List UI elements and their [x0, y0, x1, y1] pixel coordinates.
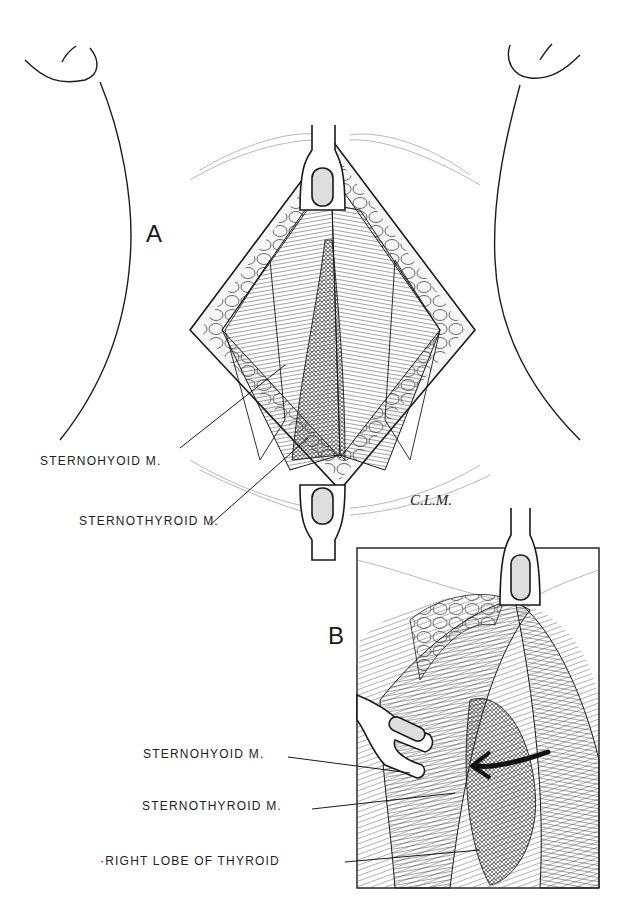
retractor-bottom-a: [300, 485, 345, 560]
label-sternothyroid-b: STERNOTHYROID M.: [142, 800, 282, 812]
neck-outline-right: [495, 44, 580, 440]
panel-label-a: A: [146, 222, 162, 246]
artist-signature: C.L.M.: [410, 492, 452, 509]
retractor-top-a: [300, 125, 345, 210]
retractor-top-b: [500, 508, 540, 605]
label-sternohyoid-b: STERNOHYOID M.: [143, 748, 264, 760]
surgical-illustration: A B STERNOHYOID M. STERNOTHYROID M. STER…: [0, 0, 623, 907]
panel-label-b: B: [328, 624, 344, 648]
neck-outline-left: [25, 46, 131, 440]
label-sternothyroid-a: STERNOTHYROID M.: [79, 515, 219, 527]
label-sternohyoid-a: STERNOHYOID M.: [40, 455, 161, 467]
label-right-lobe-thyroid: ·RIGHT LOBE OF THYROID: [100, 855, 280, 867]
